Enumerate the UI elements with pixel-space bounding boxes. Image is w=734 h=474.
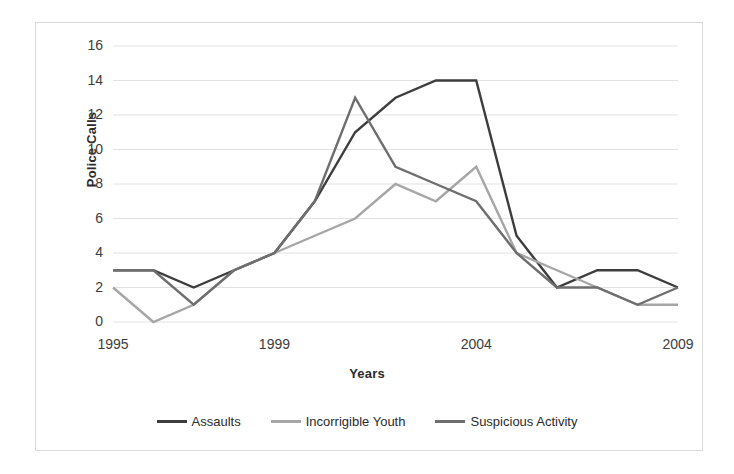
series-line-suspicious-activity [113,98,678,305]
y-tick-label: 12 [73,106,103,122]
x-tick-label: 1995 [83,336,143,352]
legend-label: Suspicious Activity [470,414,577,429]
legend-label: Incorrigible Youth [306,414,406,429]
x-tick-label: 1999 [244,336,304,352]
legend-line-swatch-icon [435,420,465,423]
y-tick-label: 0 [73,313,103,329]
legend-item[interactable]: Incorrigible Youth [271,414,406,429]
legend-item[interactable]: Suspicious Activity [435,414,577,429]
x-tick-label: 2009 [648,336,708,352]
y-tick-label: 14 [73,72,103,88]
legend-label: Assaults [192,414,241,429]
y-tick-label: 4 [73,244,103,260]
y-tick-label: 10 [73,141,103,157]
legend-line-swatch-icon [157,420,187,423]
chart-legend: AssaultsIncorrigible YouthSuspicious Act… [0,414,734,429]
x-axis-title: Years [0,366,734,381]
line-chart-plot [0,0,734,474]
legend-line-swatch-icon [271,420,301,423]
y-tick-label: 6 [73,210,103,226]
x-tick-label: 2004 [446,336,506,352]
legend-item[interactable]: Assaults [157,414,241,429]
series-line-incorrigible-youth [113,167,678,322]
y-tick-label: 2 [73,279,103,295]
y-tick-label: 8 [73,175,103,191]
y-tick-label: 16 [73,37,103,53]
